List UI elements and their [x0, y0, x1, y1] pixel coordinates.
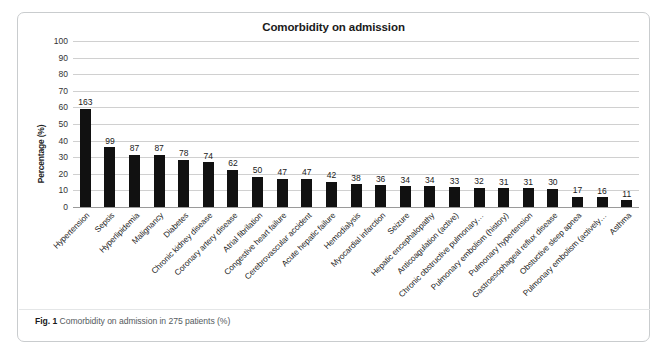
bar: [104, 147, 115, 207]
bar-slot: 30: [541, 41, 566, 207]
bar: [252, 177, 263, 207]
y-tick-label: 90: [59, 53, 68, 62]
bar: [449, 187, 460, 207]
bar: [277, 179, 288, 207]
bar: [400, 186, 411, 207]
bar-slot: 47: [294, 41, 319, 207]
bar-slot: 163: [73, 41, 98, 207]
y-tick-label: 70: [59, 87, 68, 96]
bar-slot: 17: [565, 41, 590, 207]
x-axis-category-labels: HypertensionSepsisHyperlipidemiaMalignan…: [73, 211, 639, 307]
bar-value-label: 11: [610, 190, 644, 199]
figure-number: Fig. 1: [35, 316, 57, 326]
bar: [375, 185, 386, 207]
bar-slot: 99: [98, 41, 123, 207]
bar-series: 1639987877874625047474238363434333231313…: [73, 41, 639, 207]
bar: [129, 155, 140, 207]
bar: [203, 162, 214, 207]
y-tick-label: 40: [59, 136, 68, 145]
bar: [498, 188, 509, 207]
bar: [621, 200, 632, 207]
bar: [572, 197, 583, 207]
bar-slot: 47: [270, 41, 295, 207]
bar-slot: 87: [122, 41, 147, 207]
bar: [474, 188, 485, 207]
bar: [597, 197, 608, 207]
y-tick-label: 100: [54, 37, 68, 46]
bar-slot: 16: [590, 41, 615, 207]
bar: [80, 109, 91, 207]
bar-slot: 78: [171, 41, 196, 207]
caption-divider: [19, 309, 650, 310]
figure-caption: Fig. 1 Comorbidity on admission in 275 p…: [35, 316, 230, 326]
bar: [351, 184, 362, 207]
plot-area: 1639987877874625047474238363434333231313…: [73, 41, 639, 207]
bar-slot: 11: [614, 41, 639, 207]
y-tick-label: 10: [59, 186, 68, 195]
bar: [326, 182, 337, 207]
figure-container: Comorbidity on admission Percentage (%) …: [17, 12, 650, 342]
x-axis-label: Sepsis: [93, 211, 116, 234]
bar: [424, 186, 435, 207]
bar: [301, 179, 312, 207]
bar: [178, 160, 189, 207]
y-tick-label: 80: [59, 70, 68, 79]
bar-slot: 42: [319, 41, 344, 207]
bar: [523, 188, 534, 207]
plot-wrapper: Percentage (%) 1009080706050403020100 16…: [18, 41, 649, 309]
bar-slot: 74: [196, 41, 221, 207]
y-tick-label: 50: [59, 120, 68, 129]
y-tick-label: 30: [59, 153, 68, 162]
bar: [154, 155, 165, 207]
figure-caption-text: Comorbidity on admission in 275 patients…: [60, 316, 231, 326]
y-axis-tick-labels: 1009080706050403020100: [40, 41, 68, 207]
y-tick-label: 60: [59, 103, 68, 112]
bar-slot: 87: [147, 41, 172, 207]
bar: [547, 189, 558, 207]
y-tick-label: 0: [63, 203, 68, 212]
bar-slot: 62: [221, 41, 246, 207]
axis-baseline: [73, 207, 639, 208]
y-tick-label: 20: [59, 170, 68, 179]
x-axis-label: Hypertension: [52, 211, 92, 251]
chart-title: Comorbidity on admission: [18, 21, 649, 33]
bar-slot: 50: [245, 41, 270, 207]
bar: [227, 170, 238, 207]
x-axis-label: Asthma: [607, 211, 633, 237]
